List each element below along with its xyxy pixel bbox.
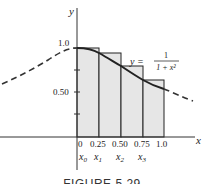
x0-label: x0 <box>78 151 87 164</box>
figure-caption: FIGURE 5.29 <box>63 177 141 184</box>
x2-label: x2 <box>115 151 124 164</box>
function-denominator: 1 + x² <box>156 63 176 72</box>
function-numerator: 1 <box>164 51 168 60</box>
x-tick-label-1: 1.0 <box>156 139 168 149</box>
y-tick-label-050: 0.50 <box>53 87 69 97</box>
curve-dashed-left <box>2 48 77 84</box>
rectangle-2 <box>99 53 121 137</box>
function-lhs: y = <box>129 56 144 67</box>
y-tick-label-1: 1.0 <box>58 38 70 48</box>
x-axis-label: x <box>195 134 201 146</box>
y-axis-label: y <box>68 5 74 17</box>
x-tick-label-050: 0.50 <box>112 139 128 149</box>
x-tick-label-0: 0 <box>78 139 83 149</box>
x-point-labels: x0 x1 x2 x3 <box>78 151 146 164</box>
x3-label: x3 <box>137 151 146 164</box>
rectangle-3 <box>121 66 143 137</box>
x-tick-label-075: 0.75 <box>134 139 150 149</box>
x-tick-label-025: 0.25 <box>90 139 106 149</box>
rectangle-1 <box>77 48 99 137</box>
curve-dashed-right <box>164 89 193 101</box>
riemann-sum-figure: y x 1.0 0.50 0 0.25 0.50 0.75 1.0 x0 x1 … <box>0 0 205 184</box>
x1-label: x1 <box>93 151 102 164</box>
rectangles <box>77 48 164 137</box>
